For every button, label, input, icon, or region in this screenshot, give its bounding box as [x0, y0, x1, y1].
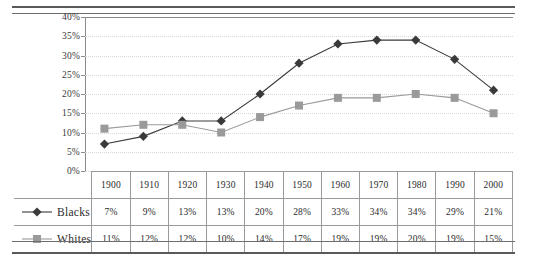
bottom-rule-inner — [12, 241, 515, 242]
table-column-header: 1960 — [321, 172, 359, 199]
legend-label: Whites — [57, 233, 91, 245]
table-cell: 28% — [283, 199, 321, 226]
table-cell: 11% — [92, 226, 130, 253]
data-point-whites-1990 — [451, 94, 459, 102]
data-point-blacks-1910 — [139, 132, 148, 141]
table-cell: 19% — [360, 226, 398, 253]
table-row: Whites11%12%12%10%14%17%19%19%20%19%15% — [14, 226, 513, 253]
data-point-whites-1910 — [139, 121, 147, 129]
table-cell: 19% — [436, 226, 474, 253]
y-axis-tick-label: 20% — [62, 89, 80, 99]
legend-cell-blacks: Blacks — [14, 199, 92, 226]
table-column-header: 1910 — [130, 172, 168, 199]
legend-entry: Whites — [14, 233, 91, 245]
table-cell: 19% — [321, 226, 359, 253]
table-cell: 12% — [168, 226, 206, 253]
data-point-whites-1900 — [100, 125, 108, 133]
square-marker-icon — [22, 233, 52, 245]
table-cell: 17% — [283, 226, 321, 253]
table-cell: 7% — [92, 199, 130, 226]
table-cell: 12% — [130, 226, 168, 253]
table-column-header: 1970 — [360, 172, 398, 199]
table-row: Blacks7%9%13%13%20%28%33%34%34%29%21% — [14, 199, 513, 226]
table-body: Blacks7%9%13%13%20%28%33%34%34%29%21%Whi… — [14, 199, 513, 253]
table-cell: 13% — [207, 199, 245, 226]
table-column-header: 1920 — [168, 172, 206, 199]
table-column-header: 1990 — [436, 172, 474, 199]
data-point-whites-1960 — [334, 94, 342, 102]
table-column-header: 2000 — [474, 172, 512, 199]
legend-entry: Blacks — [14, 206, 91, 218]
data-point-whites-1950 — [295, 102, 303, 110]
legend-label: Blacks — [57, 206, 90, 218]
data-point-whites-2000 — [490, 109, 498, 117]
data-point-whites-1920 — [178, 121, 186, 129]
table-column-header: 1940 — [245, 172, 283, 199]
bottom-rule-outer — [12, 252, 515, 254]
table-cell: 13% — [168, 199, 206, 226]
y-axis-tick-label: 35% — [62, 31, 80, 41]
y-axis-tick-label: 40% — [62, 12, 80, 22]
top-rule-inner — [12, 13, 515, 14]
data-point-blacks-1980 — [411, 36, 420, 45]
data-point-whites-1930 — [217, 129, 225, 137]
data-point-blacks-1930 — [217, 116, 226, 125]
table-cell: 34% — [360, 199, 398, 226]
series-line-whites — [104, 94, 493, 133]
y-axis-tick-label: 5% — [67, 147, 80, 157]
table-cell: 20% — [245, 199, 283, 226]
table-column-header: 1930 — [207, 172, 245, 199]
table-cell: 21% — [474, 199, 512, 226]
table-column-header: 1980 — [398, 172, 436, 199]
table-cell: 9% — [130, 199, 168, 226]
plot-area: 0%5%10%15%20%25%30%35%40% — [85, 17, 513, 171]
series-layer — [85, 17, 513, 171]
legend-header-cell — [14, 172, 92, 199]
y-axis-tick-label: 25% — [62, 70, 80, 80]
table-column-header: 1950 — [283, 172, 321, 199]
table-cell: 29% — [436, 199, 474, 226]
y-axis-tick-label: 15% — [62, 108, 80, 118]
table-cell: 20% — [398, 226, 436, 253]
table-header-row: 1900191019201930194019501960197019801990… — [14, 172, 513, 199]
table-cell: 34% — [398, 199, 436, 226]
table-cell: 15% — [474, 226, 512, 253]
table-cell: 10% — [207, 226, 245, 253]
legend-cell-whites: Whites — [14, 226, 92, 253]
data-point-whites-1980 — [412, 90, 420, 98]
data-point-blacks-1960 — [333, 39, 342, 48]
table-cell: 33% — [321, 199, 359, 226]
data-point-blacks-1900 — [100, 139, 109, 148]
table-column-header: 1900 — [92, 172, 130, 199]
y-axis-tick-label: 30% — [62, 51, 80, 61]
top-rule-outer — [12, 6, 515, 8]
data-point-whites-1970 — [373, 94, 381, 102]
y-axis-tick-label: 10% — [62, 128, 80, 138]
table-cell: 14% — [245, 226, 283, 253]
data-point-blacks-1970 — [372, 36, 381, 45]
series-line-blacks — [104, 40, 493, 144]
diamond-marker-icon — [22, 206, 52, 218]
data-point-whites-1940 — [256, 113, 264, 121]
chart-figure: 0%5%10%15%20%25%30%35%40% 19001910192019… — [0, 0, 536, 262]
